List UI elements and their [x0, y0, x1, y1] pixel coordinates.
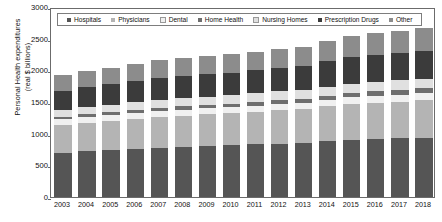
bar-segment-nursing-homes: [391, 80, 408, 90]
x-axis-tick-label: 2016: [363, 200, 387, 209]
legend-item-other[interactable]: Other: [389, 16, 413, 23]
bar-segment-prescription-drugs: [367, 55, 384, 82]
bar-segment-prescription-drugs: [391, 53, 408, 80]
bar-2009: [199, 56, 216, 197]
stacked-bar-chart: Personal Health expenditures (real $ bil…: [0, 0, 442, 222]
bar-2003: [54, 75, 71, 197]
bar-segment-prescription-drugs: [54, 91, 71, 110]
x-axis-tick-label: 2006: [122, 200, 146, 209]
bar-segment-hospitals: [78, 151, 95, 197]
x-axis-tick-label: 2004: [74, 200, 98, 209]
legend-label: Physicians: [118, 16, 150, 23]
bar-segment-physicians: [247, 112, 264, 145]
bar-segment-other: [223, 54, 240, 72]
bar-segment-other: [175, 58, 192, 76]
bar-segment-prescription-drugs: [175, 76, 192, 98]
bar-2012: [271, 49, 288, 197]
legend-swatch-icon: [67, 18, 71, 22]
legend-item-prescription-drugs[interactable]: Prescription Drugs: [318, 16, 379, 23]
bar-segment-hospitals: [223, 145, 240, 197]
plot-area: [50, 8, 435, 198]
bar-segment-physicians: [391, 102, 408, 139]
y-axis-tick-label: 2000: [18, 67, 48, 75]
legend-label: Prescription Drugs: [325, 16, 379, 23]
x-axis-tick-label: 2008: [170, 200, 194, 209]
bar-segment-nursing-homes: [367, 82, 384, 91]
legend-item-dental[interactable]: Dental: [160, 16, 188, 23]
bar-segment-other: [415, 28, 432, 51]
bar-segment-dental: [319, 100, 336, 107]
legend-item-physicians[interactable]: Physicians: [111, 16, 150, 23]
y-axis-tick-label: 2500: [18, 36, 48, 44]
bar-segment-hospitals: [319, 141, 336, 197]
bar-2005: [102, 68, 119, 197]
bar-segment-prescription-drugs: [295, 66, 312, 90]
bar-2004: [78, 71, 95, 197]
bar-2008: [175, 58, 192, 197]
bar-segment-dental: [391, 95, 408, 102]
x-axis-tick-label: 2017: [387, 200, 411, 209]
bar-segment-prescription-drugs: [247, 70, 264, 93]
bar-segment-physicians: [102, 121, 119, 150]
bar-segment-hospitals: [271, 144, 288, 198]
y-axis-tick-label: 3000: [18, 4, 48, 12]
bar-segment-physicians: [175, 116, 192, 147]
bar-2016: [367, 33, 384, 197]
bar-segment-prescription-drugs: [78, 87, 95, 107]
bar-segment-prescription-drugs: [151, 78, 168, 100]
bar-segment-other: [295, 47, 312, 67]
bar-segment-physicians: [367, 103, 384, 139]
x-axis-tick-label: 2003: [50, 200, 74, 209]
x-axis-tick-label: 2011: [243, 200, 267, 209]
bars-layer: [51, 9, 434, 197]
x-axis-tick-labels: 2003200420052006200720082009201020112012…: [50, 200, 435, 214]
chart-legend: HospitalsPhysiciansDentalHome HealthNurs…: [57, 13, 422, 26]
legend-item-nursing-homes[interactable]: Nursing Homes: [253, 16, 307, 23]
bar-segment-other: [127, 64, 144, 81]
bar-2015: [343, 36, 360, 197]
bar-segment-hospitals: [175, 147, 192, 197]
bar-2013: [295, 47, 312, 197]
bar-segment-nursing-homes: [223, 95, 240, 103]
legend-label: Nursing Homes: [262, 16, 307, 23]
x-axis-tick-label: 2012: [267, 200, 291, 209]
bar-segment-nursing-homes: [295, 90, 312, 99]
bar-segment-prescription-drugs: [343, 57, 360, 83]
y-axis-tick-label: 0: [18, 194, 48, 202]
bar-segment-hospitals: [415, 138, 432, 197]
bar-segment-physicians: [127, 119, 144, 149]
y-axis-tick-label: 1500: [18, 99, 48, 107]
bar-segment-hospitals: [391, 138, 408, 197]
x-axis-tick-label: 2014: [315, 200, 339, 209]
legend-item-hospitals[interactable]: Hospitals: [67, 16, 101, 23]
bar-segment-nursing-homes: [319, 87, 336, 96]
bar-segment-physicians: [78, 123, 95, 152]
bar-segment-other: [54, 75, 71, 91]
bar-segment-other: [78, 71, 95, 87]
bar-segment-physicians: [223, 113, 240, 145]
bar-segment-prescription-drugs: [102, 84, 119, 105]
bar-segment-nursing-homes: [54, 110, 71, 117]
bar-segment-other: [151, 60, 168, 77]
bar-segment-nursing-homes: [343, 84, 360, 93]
bar-segment-hospitals: [102, 150, 119, 197]
bar-segment-physicians: [199, 114, 216, 146]
bar-segment-prescription-drugs: [271, 68, 288, 91]
bar-2010: [223, 54, 240, 197]
legend-swatch-icon: [318, 18, 322, 22]
bar-segment-prescription-drugs: [127, 81, 144, 103]
bar-segment-nursing-homes: [127, 102, 144, 109]
bar-segment-physicians: [343, 104, 360, 140]
y-axis-tick-labels: 050010001500200025003000: [18, 0, 48, 222]
legend-swatch-icon: [253, 17, 259, 23]
x-axis-tick-label: 2007: [146, 200, 170, 209]
bar-2006: [127, 64, 144, 197]
legend-item-home-health[interactable]: Home Health: [198, 16, 243, 23]
y-axis-tick-label: 500: [18, 162, 48, 170]
legend-swatch-icon: [198, 18, 202, 22]
bar-segment-hospitals: [127, 149, 144, 197]
bar-segment-physicians: [295, 109, 312, 143]
x-axis-tick-label: 2018: [411, 200, 435, 209]
bar-segment-other: [319, 41, 336, 61]
bar-2007: [151, 60, 168, 197]
